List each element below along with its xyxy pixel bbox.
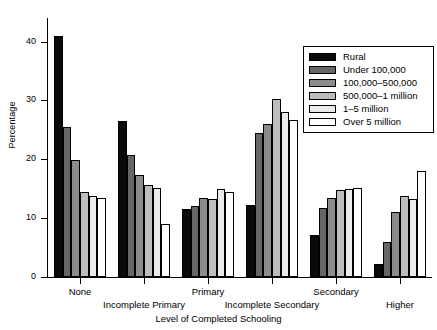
y-tick — [41, 42, 47, 43]
x-tick — [272, 278, 273, 284]
x-axis-line — [47, 277, 432, 278]
x-tick — [400, 278, 401, 284]
legend-label: 100,000–500,000 — [343, 78, 417, 88]
x-axis-title: Level of Completed Schooling — [0, 313, 437, 324]
y-tick-label: 40 — [0, 37, 36, 46]
legend-item: 500,000–1 million — [309, 90, 428, 102]
bar — [345, 189, 354, 277]
x-tick-label: Secondary — [313, 287, 358, 297]
x-tick-label: Higher — [386, 300, 414, 310]
legend-item: Under 100,000 — [309, 64, 428, 76]
bar — [310, 235, 319, 277]
y-tick — [41, 218, 47, 219]
bar-group — [118, 18, 170, 277]
legend-label: Rural — [343, 52, 366, 62]
bar — [272, 99, 281, 277]
bar — [289, 120, 298, 277]
x-tick — [208, 278, 209, 284]
legend-swatch — [309, 79, 336, 87]
bar-group — [54, 18, 106, 277]
bar — [182, 209, 191, 277]
bar — [80, 192, 89, 277]
bar — [225, 192, 234, 277]
x-tick-label: Primary — [192, 287, 225, 297]
bar — [319, 208, 328, 277]
legend-item: Rural — [309, 51, 428, 63]
y-tick-label: 30 — [0, 95, 36, 104]
legend-item: Over 5 million — [309, 116, 428, 128]
legend-label: 1–5 million — [343, 104, 388, 114]
bar — [417, 171, 426, 277]
bar — [127, 155, 136, 277]
chart-legend: RuralUnder 100,000100,000–500,000500,000… — [303, 46, 434, 133]
bar — [409, 199, 418, 277]
bar — [63, 127, 72, 277]
legend-item: 100,000–500,000 — [309, 77, 428, 89]
bar — [255, 133, 264, 277]
bar-group — [246, 18, 298, 277]
bar — [336, 190, 345, 277]
bar-chart: Percentage 010203040 NoneIncomplete Prim… — [0, 0, 437, 330]
x-tick — [144, 278, 145, 284]
bar — [217, 189, 226, 277]
bar — [391, 212, 400, 277]
y-tick — [41, 100, 47, 101]
legend-swatch — [309, 118, 336, 126]
bar — [208, 199, 217, 277]
x-tick — [336, 278, 337, 284]
bar — [281, 112, 290, 277]
bar — [153, 188, 162, 277]
x-tick-label: Incomplete Primary — [103, 300, 185, 310]
bar — [89, 196, 98, 277]
x-tick-label: Incomplete Secondary — [225, 300, 320, 310]
bar — [374, 264, 383, 277]
bar-group — [182, 18, 234, 277]
bar — [327, 198, 336, 277]
legend-label: 500,000–1 million — [343, 91, 417, 101]
x-tick-label: None — [69, 287, 92, 297]
y-tick-label: 0 — [0, 272, 36, 281]
bar — [71, 160, 80, 277]
bar — [161, 224, 170, 277]
bar — [353, 188, 362, 277]
y-tick-label: 20 — [0, 154, 36, 163]
bar — [135, 175, 144, 277]
bar — [199, 198, 208, 277]
legend-item: 1–5 million — [309, 103, 428, 115]
bar — [144, 185, 153, 277]
y-tick-label: 10 — [0, 213, 36, 222]
legend-label: Over 5 million — [343, 117, 401, 127]
legend-swatch — [309, 66, 336, 74]
legend-swatch — [309, 92, 336, 100]
bar — [191, 206, 200, 277]
bar — [400, 196, 409, 277]
bar — [383, 242, 392, 277]
bar — [54, 36, 63, 277]
bar — [246, 205, 255, 277]
bar — [118, 121, 127, 277]
y-tick — [41, 159, 47, 160]
bar — [263, 124, 272, 277]
x-tick — [80, 278, 81, 284]
legend-label: Under 100,000 — [343, 65, 406, 75]
legend-swatch — [309, 53, 336, 61]
legend-swatch — [309, 105, 336, 113]
bar — [97, 198, 106, 277]
